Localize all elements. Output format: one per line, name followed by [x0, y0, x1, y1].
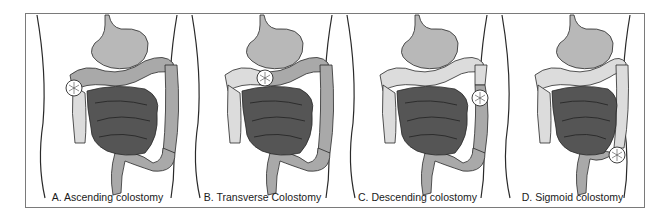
- abdomen-illustration: [180, 13, 345, 208]
- abdomen-illustration: [25, 13, 190, 208]
- panel-caption: C. Descending colostomy: [335, 191, 500, 203]
- panel-descending-colostomy: C. Descending colostomy: [335, 13, 500, 208]
- panel-caption: B. Transverse Colostomy: [180, 191, 345, 203]
- abdomen-illustration: [335, 13, 500, 208]
- panel-caption: A. Ascending colostomy: [25, 191, 190, 203]
- panel-transverse-colostomy: B. Transverse Colostomy: [180, 13, 345, 208]
- panel-ascending-colostomy: A. Ascending colostomy: [25, 13, 190, 208]
- abdomen-illustration: [490, 13, 655, 208]
- panel-caption: D. Sigmoid colostomy: [490, 191, 655, 203]
- panel-sigmoid-colostomy: D. Sigmoid colostomy: [490, 13, 655, 208]
